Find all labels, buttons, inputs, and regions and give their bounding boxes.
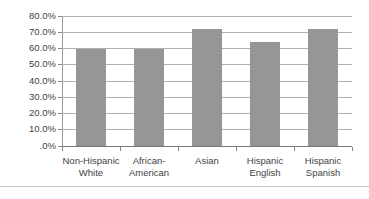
y-axis-tick-label: 20.0% bbox=[4, 108, 56, 118]
x-axis-tick-mark bbox=[120, 147, 121, 151]
x-axis-tick-mark bbox=[62, 147, 63, 151]
y-axis-tick-label: 70.0% bbox=[4, 27, 56, 37]
plot-wrapper: 80.0% 70.0% 60.0% 50.0% 40.0% 30.0% 20.0… bbox=[0, 0, 369, 199]
bar-asian bbox=[192, 29, 222, 146]
x-axis-baseline bbox=[62, 146, 352, 147]
x-axis-category-label-line2: White bbox=[62, 167, 120, 179]
x-axis-tick-mark bbox=[294, 147, 295, 151]
x-axis-tick-mark bbox=[178, 147, 179, 151]
x-axis-category-label: Hispanic Spanish bbox=[294, 155, 352, 178]
x-axis-category-label-line2: American bbox=[120, 167, 178, 179]
x-axis-category-label-line1: Asian bbox=[178, 155, 236, 167]
x-axis-category-label-line1: Hispanic bbox=[294, 155, 352, 167]
y-axis-tick-label: 10.0% bbox=[4, 124, 56, 134]
x-axis-tick-mark bbox=[352, 147, 353, 151]
x-axis-category-label: Hispanic English bbox=[236, 155, 294, 178]
x-axis-category-label-line2: English bbox=[236, 167, 294, 179]
figure-bottom-rule bbox=[0, 186, 369, 187]
y-axis-tick-label: 80.0% bbox=[4, 11, 56, 21]
y-axis-tick-label: 60.0% bbox=[4, 43, 56, 53]
plot-area bbox=[62, 16, 352, 146]
gridline bbox=[62, 16, 352, 17]
y-axis-tick-label: 30.0% bbox=[4, 92, 56, 102]
x-axis-category-label-line1: Non-Hispanic bbox=[62, 155, 120, 167]
bar-non-hispanic-white bbox=[76, 49, 106, 147]
x-axis-tick-mark bbox=[236, 147, 237, 151]
x-axis-category-label: Non-Hispanic White bbox=[62, 155, 120, 178]
x-axis-category-label: Asian bbox=[178, 155, 236, 167]
x-axis-category-label-line2: Spanish bbox=[294, 167, 352, 179]
x-axis-category-label-line1: African- bbox=[120, 155, 178, 167]
y-axis-tick-label: 50.0% bbox=[4, 59, 56, 69]
bar-chart-figure: 80.0% 70.0% 60.0% 50.0% 40.0% 30.0% 20.0… bbox=[0, 0, 369, 199]
x-axis-category-label-line1: Hispanic bbox=[236, 155, 294, 167]
x-axis-category-label: African- American bbox=[120, 155, 178, 178]
y-axis-tick-label: .0% bbox=[4, 141, 56, 151]
bar-hispanic-english bbox=[250, 42, 280, 146]
bar-hispanic-spanish bbox=[308, 29, 338, 146]
bar-african-american bbox=[134, 49, 164, 147]
y-axis-tick-label: 40.0% bbox=[4, 76, 56, 86]
